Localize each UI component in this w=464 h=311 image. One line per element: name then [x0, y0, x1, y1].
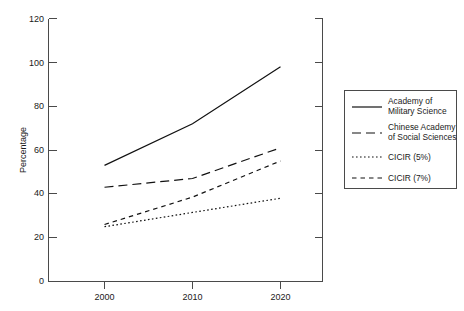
legend-label: Chinese Academy: [388, 122, 456, 132]
y-tick-label: 0: [39, 276, 44, 286]
y-axis-title: Percentage: [18, 127, 28, 173]
y-tick-label: 20: [34, 232, 44, 242]
series-line-chinese-academy-of-social-sciences: [105, 148, 281, 187]
x-tick-marks: [105, 282, 281, 289]
x-tick-label: 2020: [270, 292, 290, 302]
y-tick-label: 60: [34, 145, 44, 155]
legend-label: Academy of: [388, 96, 433, 106]
x-tick-label: 2000: [94, 292, 114, 302]
x-tick-labels: 2000 2010 2020: [94, 292, 290, 302]
series-line-cicir-7: [105, 161, 281, 225]
y-tick-label: 120: [29, 14, 44, 24]
y-tick-marks: [49, 19, 57, 282]
legend-label: CICIR (7%): [388, 173, 431, 183]
x-tick-label: 2010: [182, 292, 202, 302]
series-group: [105, 67, 281, 227]
legend-label: of Social Sciences: [388, 132, 456, 142]
y-tick-labels: 120 100 80 60 40 20 0: [29, 14, 44, 286]
y-tick-label: 40: [34, 188, 44, 198]
y-tick-marks-right: [315, 19, 323, 282]
y-tick-label: 80: [34, 101, 44, 111]
legend-label: CICIR (5%): [388, 152, 431, 162]
series-line-academy-of-military-science: [105, 67, 281, 166]
series-line-cicir-5: [105, 198, 281, 226]
chart-container: Percentage 120 100 80 60 40 20 0: [0, 0, 464, 311]
y-tick-label: 100: [29, 58, 44, 68]
legend: Academy of Military Science Chinese Acad…: [345, 91, 457, 189]
line-chart: Percentage 120 100 80 60 40 20 0: [0, 0, 464, 311]
legend-label: Military Science: [388, 106, 447, 116]
